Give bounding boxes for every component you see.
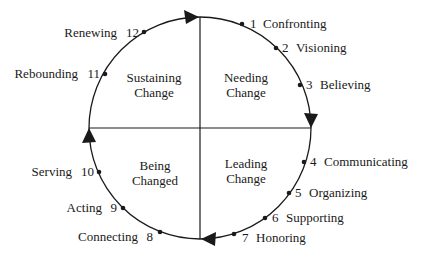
step-label: Organizing [309,185,368,200]
quadrant-needing-line1: Needing [224,70,269,85]
step-label-8: Connecting 8 [78,229,153,244]
step-number: 4 [310,154,317,169]
step-label: Believing [320,77,371,92]
step-dot-5 [287,191,292,196]
step-label-11: Rebounding 11 [14,66,100,81]
step-dot-2 [274,46,279,51]
step-number: 11 [87,66,100,81]
step-number: 10 [81,164,94,179]
step-label-9: Acting 9 [67,200,117,215]
step-label: Renewing [64,25,117,40]
arrow-right-down-icon [304,113,318,128]
quadrant-needing-line2: Change [226,85,266,100]
step-label-1: 1 Confronting [250,16,327,31]
step-dot-7 [232,232,237,237]
step-label: Rebounding [14,66,78,81]
step-number: 8 [147,229,154,244]
quadrant-sustaining-line2: Change [134,85,174,100]
step-dot-12 [142,30,147,35]
step-number: 1 [250,16,257,31]
step-number: 7 [242,230,249,245]
step-dot-8 [158,230,163,235]
step-label: Visioning [296,40,347,55]
step-number: 12 [126,25,139,40]
step-label: Serving [32,164,73,179]
step-dot-9 [121,206,126,211]
arrow-left-up-icon [82,128,96,143]
step-label: Communicating [324,154,408,169]
step-dots [97,22,307,237]
change-cycle-diagram: Needing Change Leading Change Being Chan… [0,0,425,265]
quadrant-being-line1: Being [139,158,171,173]
quadrant-leading-line2: Change [226,171,266,186]
step-dot-11 [103,72,108,77]
step-dot-6 [263,216,268,221]
step-number: 6 [272,210,279,225]
step-dot-10 [97,170,102,175]
step-label-12: Renewing 12 [64,25,139,40]
step-label-2: 2 Visioning [282,40,347,55]
step-label-5: 5 Organizing [295,185,368,200]
step-label: Confronting [263,16,327,31]
arrow-bottom-left-icon [201,232,216,246]
step-label: Supporting [286,210,344,225]
step-label: Honoring [256,230,306,245]
quadrant-leading-line1: Leading [225,156,268,171]
step-label: Connecting [78,229,138,244]
quadrant-being-line2: Changed [132,173,179,188]
step-label: Acting [67,200,103,215]
step-label-10: Serving 10 [32,164,94,179]
step-number: 3 [306,77,313,92]
step-label-3: 3 Believing [306,77,371,92]
step-number: 2 [282,40,289,55]
arrow-top-right-icon [184,10,199,24]
step-number: 5 [295,185,302,200]
step-dot-3 [298,83,303,88]
step-label-4: 4 Communicating [310,154,408,169]
step-label-7: 7 Honoring [242,230,306,245]
step-label-6: 6 Supporting [272,210,344,225]
step-dot-1 [240,22,245,27]
step-number: 9 [111,200,118,215]
quadrant-sustaining-line1: Sustaining [127,70,182,85]
step-dot-4 [302,160,307,165]
